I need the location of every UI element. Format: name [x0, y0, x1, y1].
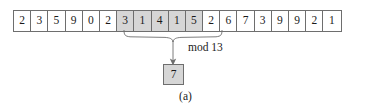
digit-cell: 1 [323, 11, 340, 31]
digit-cell: 4 [152, 11, 169, 31]
digit-cell: 2 [100, 11, 117, 31]
digit-cell: 3 [117, 11, 134, 31]
digit-cell: 9 [289, 11, 306, 31]
digit-cell: 3 [31, 11, 48, 31]
figure-caption: (a) [0, 91, 371, 103]
digit-cell: 1 [169, 11, 186, 31]
digit-cell: 9 [66, 11, 83, 31]
digit-cell: 6 [220, 11, 237, 31]
digit-cell: 9 [272, 11, 289, 31]
rolling-hash-figure: 2359023141526739921 mod 13 7 (a) [0, 0, 371, 109]
digit-cell: 3 [255, 11, 272, 31]
digit-cell: 2 [306, 11, 323, 31]
mod-operation-label: mod 13 [188, 42, 223, 54]
digit-cell: 5 [186, 11, 203, 31]
digit-strip: 2359023141526739921 [13, 10, 342, 32]
hash-result-box: 7 [163, 64, 184, 85]
digit-cell: 0 [83, 11, 100, 31]
digit-cell: 2 [203, 11, 220, 31]
digit-cell: 1 [134, 11, 151, 31]
digit-cell: 2 [14, 11, 31, 31]
brace-left-half [124, 30, 173, 42]
digit-cell: 5 [48, 11, 65, 31]
digit-cell: 7 [237, 11, 254, 31]
